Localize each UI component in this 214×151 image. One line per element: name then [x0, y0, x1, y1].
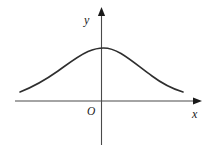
coordinate-plot: y x O [0, 0, 214, 151]
y-axis-arrow-icon [98, 7, 105, 16]
x-axis-arrow-icon [193, 97, 202, 104]
origin-label: O [87, 105, 96, 117]
x-axis-label: x [191, 107, 198, 121]
math-figure-container: y x O [0, 0, 214, 151]
y-axis-label: y [83, 13, 90, 27]
